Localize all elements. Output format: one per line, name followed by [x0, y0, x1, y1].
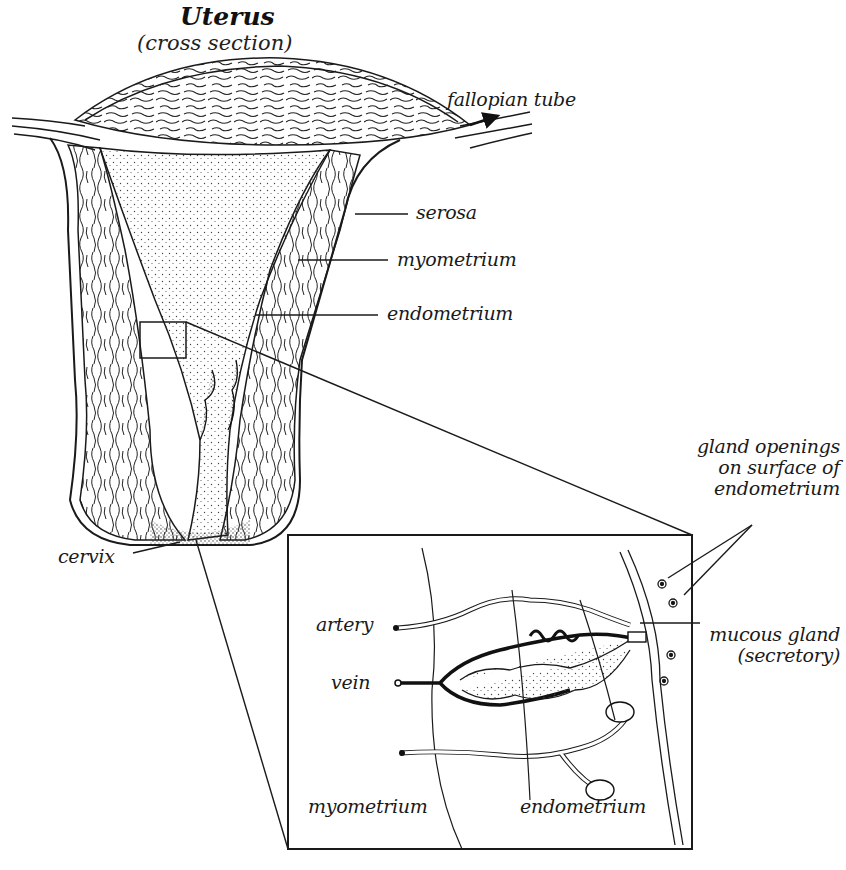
label-fallopian-tube: fallopian tube [447, 89, 576, 110]
label-myometrium: myometrium [397, 249, 517, 270]
label-mucous-gland-line2: (secretory) [690, 645, 840, 666]
label-inset-endometrium: endometrium [520, 796, 646, 817]
fundus [75, 58, 470, 145]
label-inset-myometrium: myometrium [308, 796, 428, 817]
label-mucous-gland-line1: mucous gland [690, 624, 840, 645]
label-vein: vein [331, 672, 370, 693]
label-gland-openings: gland openings on surface of endometrium [660, 436, 840, 499]
label-gland-openings-line1: gland openings [660, 436, 840, 457]
diagram-title: Uterus [180, 2, 275, 31]
label-endometrium: endometrium [387, 303, 513, 324]
label-cervix: cervix [58, 546, 115, 567]
gland-openings [658, 580, 677, 685]
label-mucous-gland: mucous gland (secretory) [690, 624, 840, 666]
label-serosa: serosa [416, 202, 477, 223]
diagram-subtitle: (cross section) [137, 31, 292, 55]
label-gland-openings-line3: endometrium [660, 478, 840, 499]
label-gland-openings-line2: on surface of [660, 457, 840, 478]
label-artery: artery [316, 614, 373, 635]
mucous-gland [460, 636, 645, 699]
